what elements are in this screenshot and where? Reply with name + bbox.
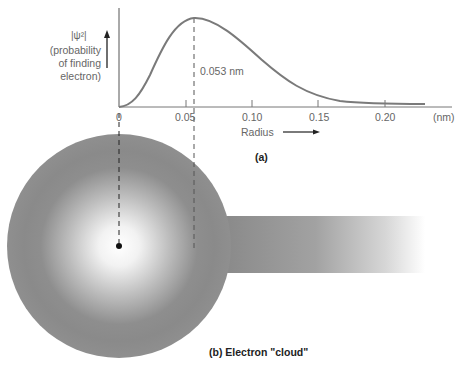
cloud-strip — [200, 216, 425, 273]
panel-a-label: (a) — [255, 151, 268, 163]
y-axis-symbol: |ψ²| — [71, 31, 87, 41]
x-unit-label: (nm) — [433, 112, 455, 123]
y-label-line-3: electron) — [40, 70, 101, 83]
radius-arrow-head-icon — [313, 130, 320, 135]
x-tick-label-0.15: 0.15 — [309, 112, 329, 123]
x-tick-label-0: 0 — [116, 112, 122, 123]
y-axis-label: (probability of finding electron) — [40, 44, 101, 83]
y-label-line-2: of finding — [40, 57, 101, 70]
panel-b-label: (b) Electron "cloud" — [209, 346, 308, 358]
probability-curve — [119, 18, 425, 107]
x-tick-label-0.10: 0.10 — [242, 112, 262, 123]
y-arrow-head-icon — [104, 30, 110, 38]
y-label-line-1: (probability — [40, 44, 101, 57]
peak-annotation: 0.053 nm — [200, 66, 244, 77]
x-axis-label: Radius — [241, 127, 274, 138]
x-tick-label-0.20: 0.20 — [375, 112, 395, 123]
x-tick-label-0.05: 0.05 — [175, 112, 195, 123]
